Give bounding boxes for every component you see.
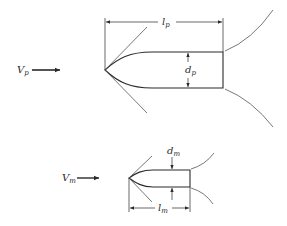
model-tail-shock-upper <box>191 153 214 169</box>
prototype-tail-shock-lower <box>225 89 273 127</box>
prototype-tail-shock-upper <box>225 10 273 51</box>
prototype-bow-shock-upper <box>105 27 147 70</box>
prototype-length-label: lp <box>162 16 170 29</box>
prototype-diameter-label: dp <box>185 64 196 77</box>
prototype-group: Vp lp dp <box>17 10 273 127</box>
similarity-diagram: Vp lp dp Vm <box>0 0 287 226</box>
prototype-body <box>105 52 223 88</box>
model-length-label: lm <box>158 202 168 215</box>
model-body <box>129 170 190 187</box>
model-tail-shock-lower <box>191 188 213 204</box>
model-velocity-label: Vm <box>62 172 76 185</box>
prototype-bow-shock-lower <box>105 70 147 113</box>
model-group: Vm dm lm <box>62 145 214 215</box>
model-diameter-label: dm <box>167 145 180 158</box>
model-bow-shock-upper <box>129 156 152 178</box>
prototype-velocity-label: Vp <box>17 64 29 77</box>
model-bow-shock-lower <box>129 178 152 202</box>
